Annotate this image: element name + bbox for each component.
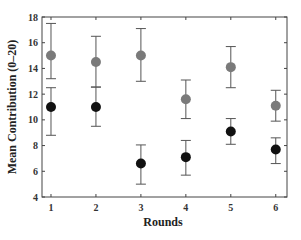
data-point: [271, 144, 281, 154]
y-tick-label: 10: [28, 114, 38, 125]
y-tick-label: 8: [33, 140, 38, 151]
x-tick-label: 6: [273, 202, 278, 213]
y-tick-label: 14: [28, 63, 38, 74]
plot-axes: 4681012141618123456: [28, 12, 287, 214]
data-point: [136, 159, 146, 169]
y-tick-label: 12: [28, 89, 38, 100]
data-point: [91, 57, 101, 67]
data-point: [271, 101, 281, 111]
error-bar-chart: 4681012141618123456 Rounds Mean Contribu…: [0, 0, 301, 240]
x-tick-label: 2: [93, 202, 98, 213]
data-series: [46, 23, 281, 184]
y-axis-title: Mean Contribution (0–20): [5, 40, 19, 175]
y-tick-label: 18: [28, 12, 38, 23]
data-point: [181, 152, 191, 162]
x-tick-label: 1: [48, 202, 53, 213]
data-point: [46, 102, 56, 112]
black-series: [46, 87, 281, 184]
y-tick-label: 6: [33, 166, 38, 177]
grey-series: [46, 23, 281, 121]
x-axis-title: Rounds: [143, 215, 183, 229]
y-tick-label: 16: [28, 37, 38, 48]
data-point: [91, 102, 101, 112]
data-point: [226, 62, 236, 72]
data-point: [226, 126, 236, 136]
x-tick-label: 4: [183, 202, 188, 213]
y-tick-label: 4: [33, 192, 38, 203]
data-point: [181, 94, 191, 104]
data-point: [136, 51, 146, 61]
x-tick-label: 3: [138, 202, 143, 213]
x-tick-label: 5: [228, 202, 233, 213]
data-point: [46, 51, 56, 61]
plot-frame: [42, 17, 287, 197]
